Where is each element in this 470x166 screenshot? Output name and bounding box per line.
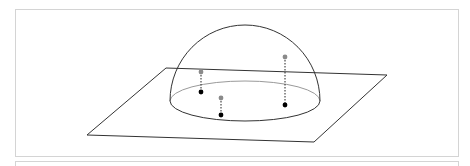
surface-point (283, 55, 288, 60)
projected-point (283, 103, 288, 108)
hemisphere-diagram (0, 0, 470, 166)
hemisphere-dome (170, 25, 320, 101)
hemisphere (170, 25, 320, 121)
projected-point (199, 90, 204, 95)
hemisphere-front-rim (170, 101, 320, 121)
surface-point (199, 70, 204, 75)
projected-points (199, 55, 288, 118)
plane (87, 68, 387, 142)
surface-point (219, 96, 224, 101)
projected-point (219, 113, 224, 118)
hemisphere-back-rim (170, 81, 320, 101)
